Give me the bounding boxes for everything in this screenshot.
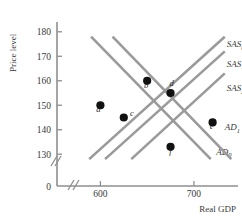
chart-container: 1301401501601701800600700Price levelReal…	[0, 0, 242, 222]
curve-label-ad1: AD1	[224, 122, 240, 134]
curve-ad1	[113, 37, 232, 159]
y-tick-label-140: 140	[37, 125, 52, 135]
x-tick-label-600: 600	[93, 189, 108, 199]
data-point-label-b: b	[144, 80, 148, 90]
x-axis-break-mark-1	[73, 180, 79, 190]
data-point-c	[120, 113, 128, 121]
data-point-label-e: e	[210, 121, 214, 131]
y-axis-title: Price level	[8, 33, 18, 72]
x-tick-label-700: 700	[187, 189, 202, 199]
curve-label-sas1: SAS1	[227, 59, 242, 71]
data-point-label-d: d	[169, 78, 174, 88]
x-axis-title: Real GDP	[199, 204, 236, 214]
y-tick-label-130: 130	[37, 150, 52, 160]
curve-label-sas0: SAS0	[227, 39, 242, 51]
data-point-label-a: a	[96, 104, 100, 114]
origin-label: 0	[46, 182, 51, 192]
as-ad-chart: 1301401501601701800600700Price levelReal…	[0, 0, 242, 222]
data-point-d	[166, 89, 174, 97]
y-tick-label-150: 150	[37, 101, 52, 111]
curve-label-sas2: SAS2	[227, 83, 242, 95]
y-tick-label-180: 180	[37, 27, 52, 37]
y-tick-label-160: 160	[37, 76, 52, 86]
x-axis-break-mark-0	[68, 180, 74, 190]
y-tick-label-170: 170	[37, 52, 52, 62]
data-point-label-c: c	[130, 108, 134, 118]
